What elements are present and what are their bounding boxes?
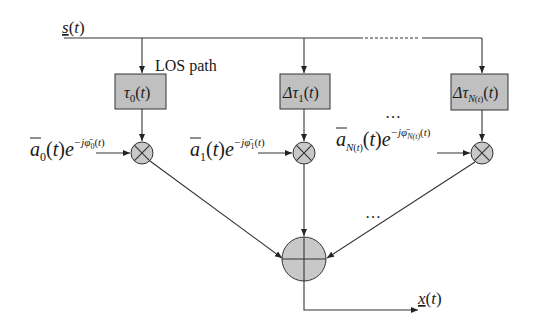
- svg-text:a1(t)e−jφ̄1(t): a1(t)e−jφ̄1(t): [190, 136, 265, 164]
- gain-label-n: aN(t)(t)e−jφ̄N(t)(t): [336, 126, 431, 154]
- gain-label-0: a0(t)e−jφ̄0(t): [30, 136, 105, 164]
- output-wire: [304, 281, 418, 310]
- ellipsis-bottom: …: [365, 204, 381, 221]
- branch-1: Δτ1(t): [258, 38, 330, 236]
- svg-text:x(t): x(t): [417, 289, 442, 308]
- svg-text:aN(t)(t)e−jφ̄N(t)(t): aN(t)(t)e−jφ̄N(t)(t): [336, 126, 431, 154]
- svg-text:a0(t)e−jφ̄0(t): a0(t)e−jφ̄0(t): [30, 136, 105, 164]
- ellipsis-top: …: [385, 104, 401, 121]
- summation-node: [282, 237, 326, 281]
- gain-label-1: a1(t)e−jφ̄1(t): [190, 136, 265, 164]
- los-label: LOS path: [155, 57, 217, 75]
- input-label: s(t): [62, 18, 85, 37]
- channel-diagram: s(t) τ0(t) LOS path a0(t)e−jφ̄0(t) Δτ1(t…: [0, 0, 533, 326]
- output-label: x(t): [417, 289, 442, 308]
- svg-text:s(t): s(t): [62, 18, 85, 37]
